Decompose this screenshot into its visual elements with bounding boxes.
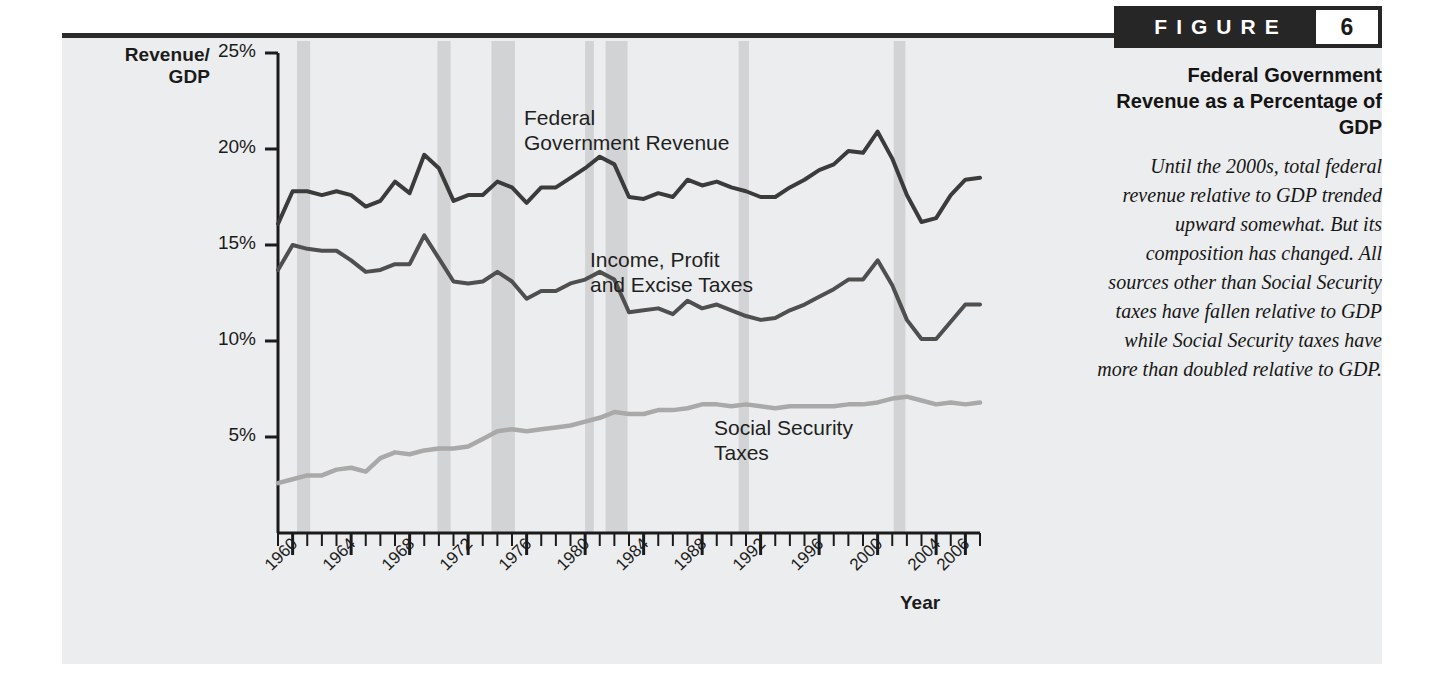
figure-badge: FIGURE 6	[1114, 6, 1382, 48]
series-label-income: Income, Profit and Excise Taxes	[590, 247, 753, 297]
figure-sidebar: FIGURE 6 Federal Government Revenue as a…	[1090, 0, 1382, 631]
figure-page: Revenue/ GDP Year Federal Government Rev…	[0, 0, 1442, 693]
figure-caption: Until the 2000s, total federal revenue r…	[1096, 152, 1382, 384]
recession-band	[437, 41, 450, 533]
figure-badge-number: 6	[1316, 10, 1378, 44]
y-axis-tick-label: 25%	[148, 40, 256, 62]
y-axis-tick-label: 20%	[148, 136, 256, 158]
figure-badge-word: FIGURE	[1114, 15, 1316, 39]
revenue-gdp-line-chart	[0, 0, 1090, 631]
series-label-social: Social Security Taxes	[714, 415, 853, 465]
figure-title: Federal Government Revenue as a Percenta…	[1100, 62, 1382, 140]
series-label-federal: Federal Government Revenue	[524, 105, 729, 155]
recession-band	[297, 41, 310, 533]
recession-band	[894, 41, 906, 533]
x-axis-title: Year	[900, 592, 940, 614]
recession-band	[492, 41, 515, 533]
chart-area: Revenue/ GDP Year Federal Government Rev…	[0, 0, 1050, 631]
social-security-taxes-line	[278, 397, 980, 483]
y-axis-tick-label: 10%	[148, 328, 256, 350]
y-axis-title-line2: GDP	[88, 66, 210, 88]
y-axis-tick-label: 5%	[148, 424, 256, 446]
y-axis-tick-label: 15%	[148, 232, 256, 254]
